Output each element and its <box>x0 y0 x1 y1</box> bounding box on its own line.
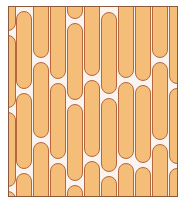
capsule-tile <box>135 167 151 197</box>
capsule-tile <box>118 6 134 78</box>
capsule-tile <box>101 12 117 94</box>
capsule-tile <box>67 6 83 19</box>
capsule-tile <box>33 62 49 138</box>
capsule-tile <box>50 6 66 79</box>
capsule-tile <box>67 23 83 100</box>
pattern-column <box>8 7 16 196</box>
pattern-frame <box>8 6 178 197</box>
capsule-tile <box>50 83 66 159</box>
capsule-tile <box>118 163 134 197</box>
capsule-tile <box>152 6 168 58</box>
capsule-tile <box>8 191 16 197</box>
capsule-tile <box>16 11 32 89</box>
capsule-tile <box>101 176 117 197</box>
capsule-tile <box>8 35 16 108</box>
capsule-tile <box>33 142 49 197</box>
pattern-column <box>16 7 32 196</box>
capsule-tile <box>152 62 168 140</box>
capsule-tile <box>16 173 32 197</box>
capsule-tile <box>8 6 16 31</box>
pattern-column <box>169 7 178 196</box>
capsule-tile <box>169 168 178 197</box>
capsule-tile <box>33 6 49 58</box>
capsule-tile <box>8 112 16 187</box>
capsule-tile <box>84 161 100 197</box>
capsule-tile <box>16 93 32 169</box>
pattern-column <box>33 7 49 196</box>
capsule-tile <box>135 6 151 81</box>
capsule-tile <box>152 144 168 197</box>
capsule-tile <box>67 185 83 197</box>
capsule-tile <box>169 88 178 164</box>
pattern-column <box>50 7 66 196</box>
pattern-column <box>101 7 117 196</box>
pattern-column <box>118 7 134 196</box>
capsule-tile <box>50 163 66 197</box>
pattern-column <box>152 7 168 196</box>
pattern-column <box>84 7 100 196</box>
capsule-tile <box>135 85 151 163</box>
capsule-tile <box>84 80 100 157</box>
capsule-tile <box>169 6 178 84</box>
capsule-tile <box>101 98 117 172</box>
pattern-column <box>67 7 83 196</box>
capsule-tile <box>67 104 83 181</box>
pattern-column <box>135 7 151 196</box>
capsule-tile <box>118 82 134 159</box>
capsule-tile <box>84 6 100 76</box>
